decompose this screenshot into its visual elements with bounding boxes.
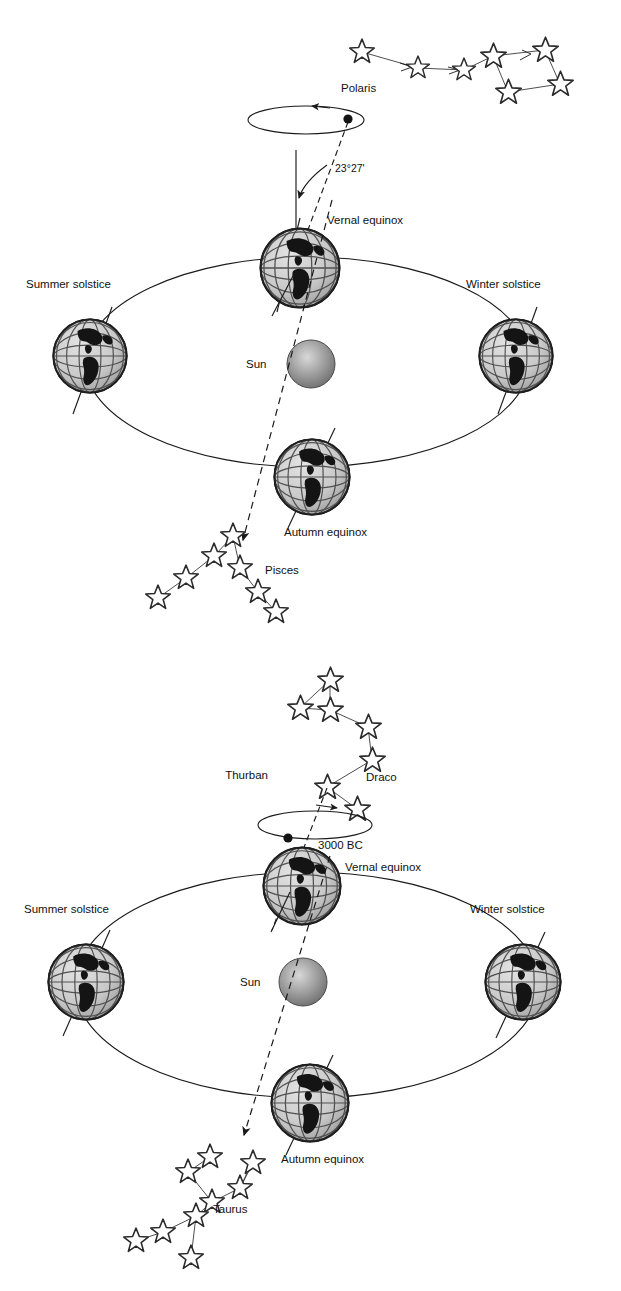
- label-taurus: Taurus: [213, 1203, 248, 1215]
- earth-vernal-equinox-present: [261, 218, 340, 316]
- earth-winter-solstice-3000bc: [485, 932, 560, 1038]
- label-vernal-equinox-3000bc: Vernal equinox: [345, 861, 421, 873]
- label-pisces: Pisces: [265, 564, 299, 576]
- star: [221, 523, 246, 546]
- star: [198, 1144, 223, 1167]
- label-polaris: Polaris: [341, 82, 376, 94]
- star-thuban: [315, 774, 340, 798]
- label-sun-present: Sun: [246, 358, 266, 370]
- label-winter-solstice-present: Winter solstice: [466, 278, 541, 290]
- constellation-ursa-minor: [350, 37, 573, 103]
- label-thurban: Thurban: [225, 769, 268, 781]
- star: [241, 1150, 266, 1173]
- star: [481, 43, 506, 67]
- earth-summer-solstice-present: [53, 307, 126, 414]
- star: [360, 747, 385, 771]
- label-axial-tilt: 23°27': [335, 162, 365, 174]
- constellation-draco: [288, 667, 385, 820]
- star: [246, 579, 271, 602]
- earth-summer-solstice-3000bc: [48, 930, 123, 1036]
- label-summer-solstice-3000bc: Summer solstice: [24, 903, 109, 915]
- sun-present: [287, 340, 335, 388]
- star: [176, 1159, 201, 1182]
- star: [174, 565, 199, 588]
- star: [151, 1219, 176, 1242]
- star: [453, 58, 476, 80]
- label-autumn-equinox-3000bc: Autumn equinox: [281, 1153, 364, 1165]
- star-polaris: [350, 39, 375, 62]
- star: [184, 1203, 209, 1226]
- star: [533, 37, 558, 61]
- star: [228, 555, 253, 578]
- star: [345, 796, 370, 820]
- label-sun-3000bc: Sun: [240, 976, 260, 988]
- precession-figure: Polaris 23°27' Sun Vernal equinox: [0, 0, 621, 1291]
- earth-autumn-equinox-present: [274, 428, 349, 528]
- panel-3000-bc: Thurban Draco Sun 3000 BC Vernal equinox: [24, 667, 561, 1268]
- label-draco: Draco: [366, 771, 397, 783]
- precession-circle-present: [248, 106, 364, 134]
- star: [496, 79, 521, 103]
- star: [179, 1245, 204, 1268]
- star: [228, 1175, 253, 1198]
- label-autumn-equinox-present: Autumn equinox: [284, 526, 367, 538]
- label-epoch-3000bc: 3000 BC: [318, 839, 363, 851]
- label-winter-solstice-3000bc: Winter solstice: [470, 903, 545, 915]
- star: [318, 697, 343, 721]
- star: [407, 56, 430, 78]
- star: [548, 71, 573, 95]
- label-summer-solstice-present: Summer solstice: [26, 278, 111, 290]
- label-vernal-equinox-present: Vernal equinox: [327, 214, 403, 226]
- earth-autumn-equinox-3000bc: [271, 1055, 348, 1155]
- star: [124, 1228, 149, 1251]
- celestial-pole-marker: [283, 833, 292, 842]
- star: [146, 585, 171, 608]
- panel-present-day: Polaris 23°27' Sun Vernal equinox: [26, 37, 573, 622]
